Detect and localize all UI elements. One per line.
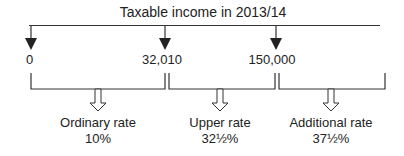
band-upper-name: Upper rate: [189, 116, 250, 129]
hollow-arrow-down-icon: [212, 89, 228, 111]
band-upper-rate: 32½%: [202, 132, 239, 145]
band-additional-rate: 37½%: [313, 132, 350, 145]
arrow-down-icon: [159, 38, 171, 50]
hollow-arrow-down-icon: [323, 89, 339, 111]
band-additional-name: Additional rate: [289, 116, 372, 129]
arrow-down-icon: [25, 38, 37, 50]
diagram-title: Taxable income in 2013/14: [120, 5, 287, 19]
threshold-32010: 32,010: [142, 53, 182, 66]
band-ordinary-rate: 10%: [85, 132, 111, 145]
threshold-0: 0: [26, 53, 33, 66]
band-ordinary-name: Ordinary rate: [60, 116, 136, 129]
arrow-down-icon: [270, 38, 282, 50]
hollow-arrow-down-icon: [90, 89, 106, 111]
threshold-150000: 150,000: [249, 53, 296, 66]
